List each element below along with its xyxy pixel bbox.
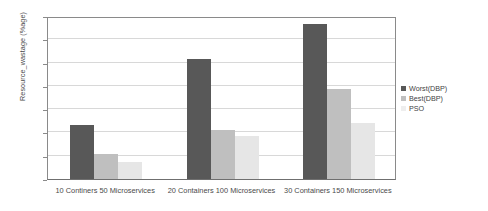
y-axis-tick-mark <box>43 180 47 181</box>
x-axis-category-label: 30 Containers 150 Microservices <box>284 186 392 195</box>
chart-legend: Worst(DBP)Best(DBP)PSO <box>401 84 447 113</box>
legend-item: Worst(DBP) <box>401 84 447 93</box>
bar-chart: Resource_wastage (%age) 05101520253035 1… <box>0 0 488 211</box>
legend-item-label: PSO <box>409 104 424 113</box>
legend-item-label: Best(DBP) <box>409 94 443 103</box>
legend-swatch-icon <box>401 96 406 101</box>
y-axis-tick-mark <box>43 17 47 18</box>
legend-item: Best(DBP) <box>401 94 447 103</box>
y-axis-tick-mark <box>43 87 47 88</box>
legend-item-label: Worst(DBP) <box>409 84 447 93</box>
y-axis-tick-mark <box>43 157 47 158</box>
gridline <box>48 62 395 63</box>
bar <box>187 59 211 179</box>
bar <box>118 162 142 179</box>
legend-item: PSO <box>401 104 447 113</box>
bar <box>94 154 118 179</box>
plot-area <box>47 17 396 180</box>
bar <box>70 125 94 179</box>
y-axis-tick-mark <box>43 110 47 111</box>
legend-swatch-icon <box>401 106 406 111</box>
bar <box>351 123 375 179</box>
y-axis-title: Resource_wastage (%age) <box>18 0 27 117</box>
legend-swatch-icon <box>401 86 406 91</box>
x-axis-category-label: 10 Continers 50 Microservices <box>55 186 154 195</box>
bar <box>211 130 235 179</box>
y-axis-tick-mark <box>43 64 47 65</box>
bar <box>327 89 351 179</box>
bar <box>303 24 327 179</box>
bar <box>235 136 259 179</box>
y-axis-tick-mark <box>43 133 47 134</box>
y-axis-tick-mark <box>43 40 47 41</box>
x-axis-category-label: 20 Containers 100 Microservices <box>168 186 276 195</box>
gridline <box>48 85 395 86</box>
gridline <box>48 38 395 39</box>
